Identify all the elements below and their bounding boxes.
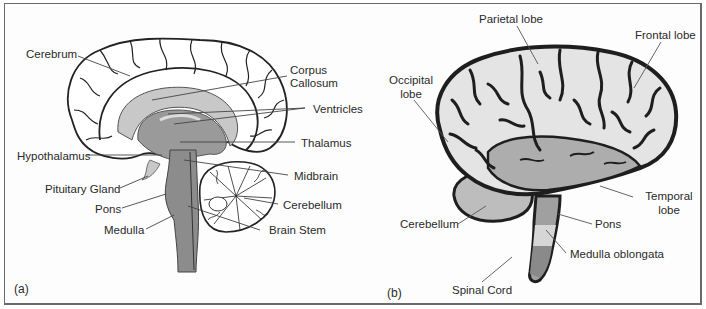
label-corpus-callosum-line2: Callosum (290, 77, 338, 90)
label-temporal-lobe-line2: lobe (642, 204, 696, 217)
cerebellum-a (200, 162, 275, 232)
label-cerebrum: Cerebrum (26, 48, 77, 61)
label-midbrain: Midbrain (294, 170, 338, 183)
label-brain-stem: Brain Stem (269, 224, 326, 237)
label-frontal-lobe: Frontal lobe (635, 29, 696, 42)
label-cerebellum-a: Cerebellum (283, 199, 342, 212)
label-hypothalamus: Hypothalamus (17, 150, 91, 163)
label-occipital-lobe-line2: lobe (385, 88, 437, 101)
panel-tag-a: (a) (14, 282, 29, 296)
panel-tag-b: (b) (387, 286, 402, 300)
label-spinal-cord: Spinal Cord (452, 284, 512, 297)
label-medulla: Medulla (104, 224, 144, 237)
label-cerebellum-b: Cerebellum (400, 218, 459, 231)
label-medulla-oblongata: Medulla oblongata (570, 248, 664, 261)
label-parietal-lobe: Parietal lobe (479, 13, 543, 26)
label-thalamus: Thalamus (301, 137, 352, 150)
lateral-brain (414, 26, 676, 282)
label-occipital-lobe-line1: Occipital (385, 74, 437, 87)
brain-illustrations (0, 0, 706, 309)
label-ventricles: Ventricles (313, 103, 363, 116)
label-temporal-lobe-line1: Temporal (642, 190, 696, 203)
label-pituitary-gland: Pituitary Gland (45, 183, 120, 196)
label-pons-a: Pons (95, 203, 121, 216)
label-pons-b: Pons (595, 218, 621, 231)
label-corpus-callosum-line1: Corpus (290, 64, 327, 77)
